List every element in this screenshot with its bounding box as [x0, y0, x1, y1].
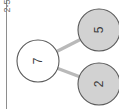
node-label-leaf-5: 5 [91, 18, 107, 42]
diagram-canvas: 2-5 7 5 2 [0, 0, 119, 109]
node-label-root: 7 [30, 49, 46, 73]
node-label-leaf-2: 2 [91, 72, 107, 96]
